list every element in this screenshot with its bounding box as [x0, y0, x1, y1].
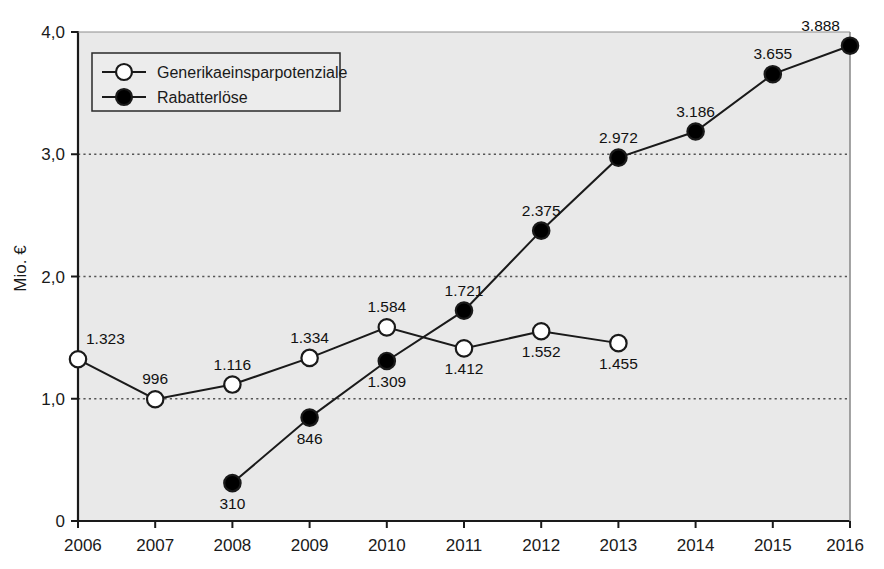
data-point-label: 3.655 — [753, 45, 792, 62]
data-point-open — [301, 350, 317, 366]
data-point-label: 1.721 — [445, 282, 484, 299]
data-point-filled — [301, 409, 317, 425]
data-point-label: 2.375 — [522, 202, 561, 219]
x-tick-label-2008: 2008 — [213, 536, 251, 555]
data-point-filled — [533, 222, 549, 238]
data-point-label: 1.334 — [290, 329, 329, 346]
x-tick-label-2007: 2007 — [136, 536, 174, 555]
data-point-label: 3.186 — [676, 103, 715, 120]
y-tick-label-2: 2,0 — [41, 268, 65, 287]
legend-label-1: Generikaeinsparpotenziale — [157, 64, 347, 81]
data-point-filled — [765, 66, 781, 82]
data-point-label: 310 — [219, 495, 245, 512]
y-tick-label-0: 0 — [56, 512, 65, 531]
x-tick-label-2009: 2009 — [291, 536, 329, 555]
chart-figure: 01,02,03,04,0Mio. €200620072008200920102… — [0, 0, 884, 569]
line-chart: 01,02,03,04,0Mio. €200620072008200920102… — [0, 0, 884, 569]
data-point-open — [533, 323, 549, 339]
legend-label-2: Rabatterlöse — [157, 89, 248, 106]
data-point-open — [224, 376, 240, 392]
data-point-label: 1.309 — [367, 373, 406, 390]
data-point-filled — [456, 302, 472, 318]
data-point-label: 1.455 — [599, 355, 638, 372]
y-tick-label-3: 3,0 — [41, 145, 65, 164]
legend: GenerikaeinsparpotenzialeRabatterlöse — [92, 53, 347, 111]
y-axis-ticks: 01,02,03,04,0 — [41, 23, 78, 531]
data-point-open — [70, 351, 86, 367]
data-point-open — [456, 340, 472, 356]
data-point-label: 1.412 — [445, 360, 484, 377]
x-tick-label-2011: 2011 — [446, 536, 483, 555]
data-point-filled — [842, 37, 858, 53]
data-point-open — [610, 335, 626, 351]
data-point-label: 3.888 — [801, 17, 840, 34]
x-tick-label-2015: 2015 — [754, 536, 792, 555]
data-point-label: 2.972 — [599, 129, 638, 146]
x-tick-label-2010: 2010 — [368, 536, 406, 555]
data-point-filled — [224, 475, 240, 491]
data-point-label: 996 — [142, 370, 168, 387]
data-point-filled — [610, 149, 626, 165]
legend-marker-open — [116, 64, 132, 80]
y-tick-label-1: 1,0 — [41, 390, 65, 409]
y-axis-title: Mio. € — [11, 245, 30, 292]
data-point-label: 1.116 — [214, 356, 252, 373]
data-point-label: 1.552 — [522, 343, 561, 360]
x-tick-label-2012: 2012 — [522, 536, 560, 555]
x-tick-label-2006: 2006 — [64, 536, 102, 555]
data-point-open — [147, 391, 163, 407]
x-tick-label-2014: 2014 — [677, 536, 715, 555]
x-tick-label-2016: 2016 — [826, 536, 864, 555]
data-point-filled — [379, 353, 395, 369]
x-axis-ticks: 2006200720082009201020112012201320142015… — [64, 521, 864, 555]
data-point-label: 1.323 — [86, 330, 125, 347]
data-point-label: 846 — [297, 430, 323, 447]
y-tick-label-4: 4,0 — [41, 23, 65, 42]
legend-marker-filled — [116, 89, 132, 105]
data-point-filled — [687, 123, 703, 139]
data-point-label: 1.584 — [367, 298, 406, 315]
data-point-open — [379, 319, 395, 335]
x-tick-label-2013: 2013 — [599, 536, 637, 555]
